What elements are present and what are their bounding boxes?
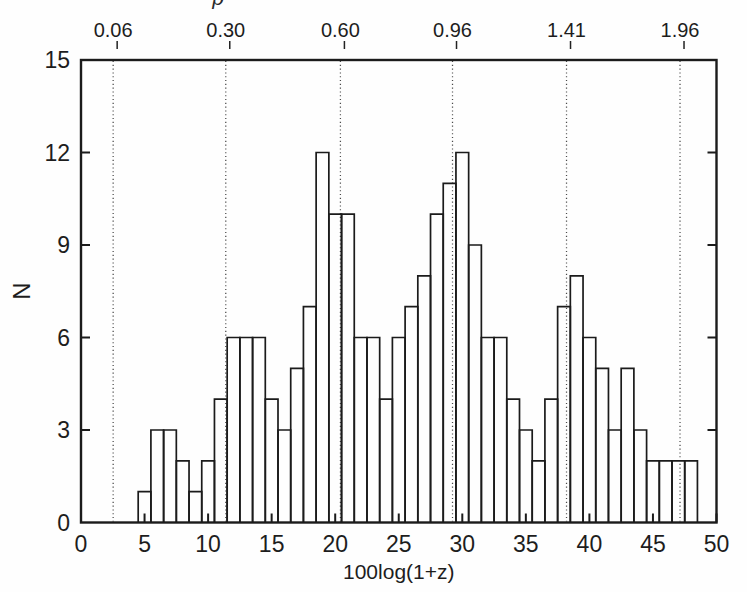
x-tick-label-40: 40 [577, 531, 603, 557]
histogram-bar-bin-10 [202, 461, 215, 523]
y-tick-label-12: 12 [44, 140, 70, 166]
x-tick-label-0: 0 [75, 531, 88, 557]
histogram-bar-bin-7 [164, 430, 177, 523]
histogram-bar-bin-28 [431, 214, 444, 522]
scanned-figure-page: p 05101520253035404550036912150.060.300.… [0, 0, 747, 592]
y-tick-label-15: 15 [44, 47, 70, 73]
histogram-bar-bin-37 [545, 399, 558, 522]
histogram-bar-bin-27 [418, 276, 431, 523]
x-tick-label-5: 5 [138, 531, 151, 557]
x-tick-label-50: 50 [704, 531, 730, 557]
x-tick-label-45: 45 [640, 531, 666, 557]
top-axis-label-0.96: 0.96 [433, 19, 472, 41]
x-tick-label-15: 15 [259, 531, 285, 557]
histogram-bar-bin-16 [278, 430, 291, 523]
histogram-bar-bin-21 [342, 214, 355, 522]
histogram-bar-bin-48 [685, 461, 698, 523]
histogram-bar-bin-26 [405, 307, 418, 523]
x-tick-label-30: 30 [450, 531, 476, 557]
y-tick-label-0: 0 [57, 510, 70, 536]
histogram-bar-bin-19 [316, 153, 329, 523]
histogram-bar-bin-24 [380, 399, 393, 522]
histogram-bar-bin-15 [265, 399, 278, 522]
histogram-bar-bin-17 [291, 368, 304, 522]
y-tick-label-3: 3 [57, 417, 70, 443]
top-axis-label-1.96: 1.96 [661, 19, 700, 41]
histogram-bar-bin-35 [519, 430, 532, 523]
histogram-bar-bin-45 [647, 461, 660, 523]
x-tick-label-20: 20 [322, 531, 348, 557]
histogram-bar-bin-34 [507, 399, 520, 522]
histogram-bar-bin-33 [494, 338, 507, 523]
y-tick-label-9: 9 [57, 232, 70, 258]
histogram-bar-bin-41 [596, 368, 609, 522]
top-axis-label-1.41: 1.41 [547, 19, 586, 41]
top-axis-label-0.30: 0.30 [206, 19, 245, 41]
histogram-bar-bin-29 [443, 183, 456, 522]
histogram-bar-bin-6 [151, 430, 164, 523]
histogram-bar-bin-32 [481, 338, 494, 523]
redshift-histogram-chart: 05101520253035404550036912150.060.300.60… [0, 0, 747, 592]
histogram-bar-bin-42 [608, 430, 621, 523]
histogram-bar-bin-31 [469, 245, 482, 523]
x-axis-title: 100log(1+z) [343, 560, 455, 583]
y-axis-title: N [8, 282, 35, 299]
histogram-bar-bin-39 [570, 276, 583, 523]
histogram-bar-bin-46 [659, 461, 672, 523]
top-axis-label-0.06: 0.06 [94, 19, 133, 41]
histogram-bar-bin-40 [583, 338, 596, 523]
histogram-bar-bin-18 [303, 307, 316, 523]
x-tick-label-35: 35 [513, 531, 539, 557]
histogram-bar-bin-14 [253, 338, 266, 523]
histogram-bar-bin-47 [672, 461, 685, 523]
histogram-bar-bin-30 [456, 153, 469, 523]
histogram-bar-bin-44 [634, 430, 647, 523]
x-tick-label-25: 25 [386, 531, 412, 557]
histogram-bar-bin-9 [189, 492, 202, 523]
y-tick-label-6: 6 [57, 325, 70, 351]
histogram-bar-bin-12 [227, 338, 240, 523]
histogram-bar-bin-36 [532, 461, 545, 523]
histogram-bar-bin-23 [367, 338, 380, 523]
histogram-bar-bin-38 [558, 307, 571, 523]
x-tick-label-10: 10 [195, 531, 221, 557]
histogram-bar-bin-22 [354, 338, 367, 523]
top-axis-label-0.60: 0.60 [321, 19, 360, 41]
histogram-bar-bin-43 [621, 368, 634, 522]
histogram-bar-bin-25 [392, 338, 405, 523]
histogram-bar-bin-8 [176, 461, 189, 523]
histogram-bar-bin-13 [240, 338, 253, 523]
histogram-bar-bin-20 [329, 214, 342, 522]
